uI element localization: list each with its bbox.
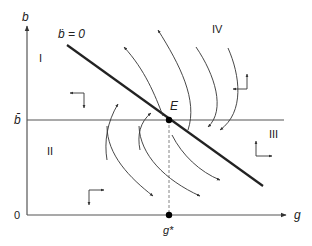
- trajectory-upper-3: [196, 47, 217, 127]
- trajectory-lower-5: [140, 130, 163, 180]
- region-IV-direction-icon: [233, 74, 247, 89]
- axes: b g 0: [14, 10, 301, 222]
- bdot-zero-label: ḃ = 0: [58, 27, 85, 41]
- region-III-label: III: [269, 128, 278, 140]
- trajectory-upper-4: [196, 47, 217, 127]
- g-star-label: g*: [163, 224, 174, 236]
- region-II-label: II: [47, 145, 53, 157]
- bdot-zero-line: [67, 45, 263, 186]
- equilibrium-label: E: [170, 99, 179, 113]
- origin-label: 0: [14, 209, 20, 221]
- region-I-direction-icon: [70, 93, 84, 108]
- region-II-direction-icon: [89, 190, 104, 205]
- trajectory-lower-3: [172, 135, 220, 180]
- trajectories: [106, 30, 238, 196]
- g-star-point: [166, 212, 172, 218]
- equilibrium-point: [166, 117, 172, 123]
- bbar-label: b̄: [14, 113, 21, 127]
- trajectory-upper-1: [124, 47, 163, 116]
- phase-diagram: b g 0 b̄ ḃ = 0 E g* I II III IV: [0, 0, 312, 246]
- trajectory-left-2: [139, 113, 151, 150]
- x-axis-label: g: [294, 208, 301, 222]
- region-IV-label: IV: [212, 23, 223, 35]
- trajectory-lower-1: [107, 126, 153, 196]
- direction-arrows: [70, 74, 272, 205]
- y-axis-label: b: [22, 10, 29, 24]
- region-I-label: I: [39, 52, 42, 64]
- region-III-direction-icon: [256, 141, 272, 156]
